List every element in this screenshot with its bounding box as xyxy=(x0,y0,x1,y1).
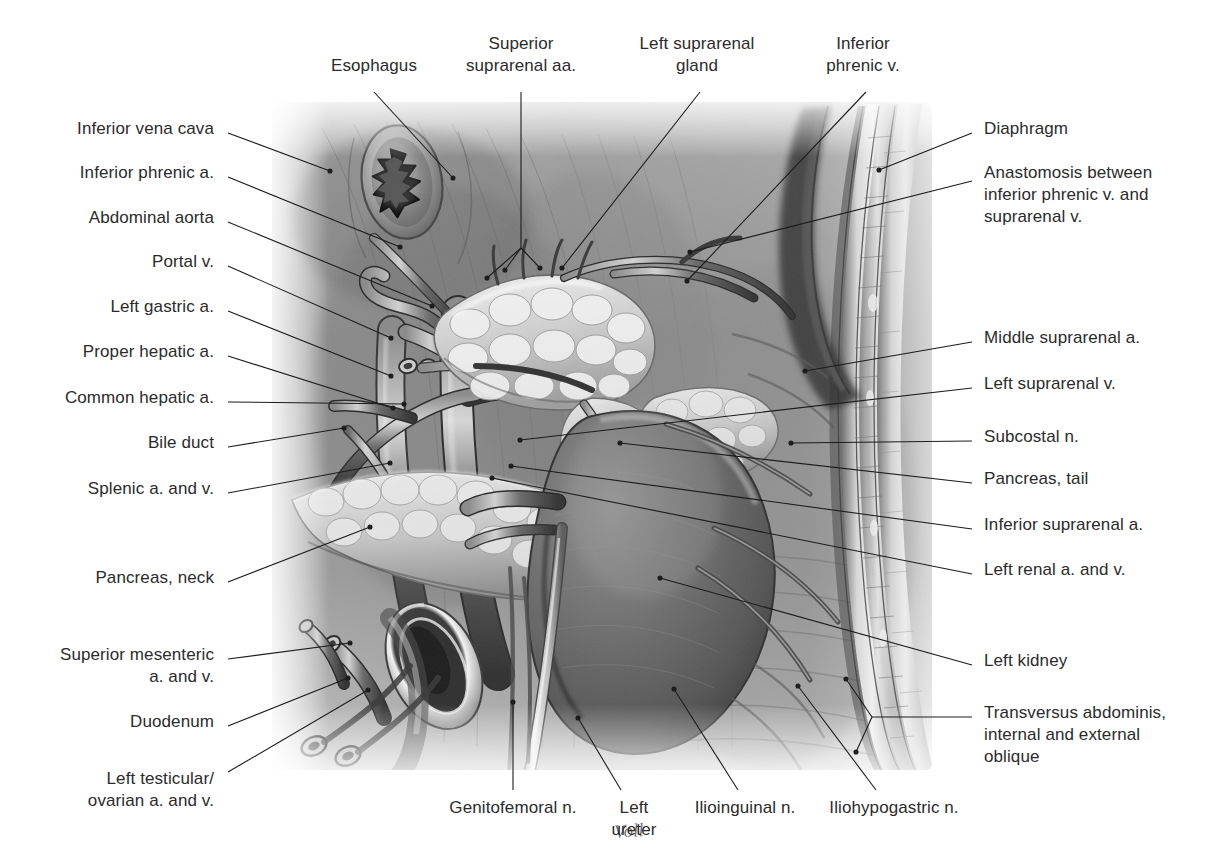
label-common-hepatic-a: Common hepatic a. xyxy=(0,387,214,409)
leader-inferior-vena-cava xyxy=(228,133,332,173)
label-anastomosis-inferior-phrenic-suprarenal: Anastomosis between inferior phrenic v. … xyxy=(984,162,1208,228)
leader-middle-suprarenal-a xyxy=(803,342,972,373)
label-left-kidney: Left kidney xyxy=(984,650,1208,672)
label-transversus-abdominis-internal-external-oblique: Transversus abdominis, internal and exte… xyxy=(984,702,1208,768)
leader-splenic-a-and-v xyxy=(228,461,392,493)
label-left-testicular-ovarian-a-and-v: Left testicular/ ovarian a. and v. xyxy=(0,768,214,812)
leader-esophagus xyxy=(374,92,455,180)
leader-left-ureter xyxy=(576,716,621,790)
leader-iliohypogastric-n xyxy=(796,684,876,790)
label-abdominal-aorta: Abdominal aorta xyxy=(0,207,214,229)
label-inferior-phrenic-a: Inferior phrenic a. xyxy=(0,162,214,184)
label-left-suprarenal-v: Left suprarenal v. xyxy=(984,373,1208,395)
label-superior-mesenteric-a-and-v: Superior mesenteric a. and v. xyxy=(0,644,214,688)
leader-abdominal-aorta xyxy=(228,222,434,308)
leader-left-kidney xyxy=(658,576,972,665)
label-inferior-suprarenal-a: Inferior suprarenal a. xyxy=(984,514,1208,536)
leader-left-suprarenal-v xyxy=(518,388,972,442)
leader-left-suprarenal-gland xyxy=(560,92,700,270)
leader-superior-mesenteric-a-and-v xyxy=(228,641,352,659)
label-left-gastric-a: Left gastric a. xyxy=(0,296,214,318)
leader-superior-suprarenal-aa xyxy=(485,92,542,280)
label-proper-hepatic-a: Proper hepatic a. xyxy=(0,341,214,363)
label-diaphragm: Diaphragm xyxy=(984,118,1208,140)
label-subcostal-n: Subcostal n. xyxy=(984,426,1208,448)
leader-anastomosis xyxy=(688,181,972,254)
leader-pancreas-neck xyxy=(228,525,372,582)
leader-subcostal-n xyxy=(789,441,972,445)
leader-duodenum xyxy=(228,676,350,726)
leader-portal-v xyxy=(228,266,393,340)
leader-left-renal-a-and-v xyxy=(490,476,972,574)
label-splenic-a-and-v: Splenic a. and v. xyxy=(0,478,214,500)
leader-genitofemoral-n xyxy=(511,700,515,790)
label-left-renal-a-and-v: Left renal a. and v. xyxy=(984,559,1208,581)
leader-inferior-phrenic-v xyxy=(685,92,866,283)
label-duodenum: Duodenum xyxy=(0,711,214,733)
leader-left-testicular-ovarian-a-and-v xyxy=(228,688,370,772)
label-iliohypogastric-n: Iliohypogastric n. xyxy=(734,797,1054,819)
leader-inferior-suprarenal-a xyxy=(509,464,972,529)
label-pancreas-neck: Pancreas, neck xyxy=(0,567,214,589)
leader-bile-duct xyxy=(228,426,346,447)
label-bile-duct: Bile duct xyxy=(0,432,214,454)
leader-ilioinguinal-n xyxy=(672,687,738,790)
leader-pancreas-tail xyxy=(618,441,972,483)
leader-transversus-abdominis-bracket xyxy=(844,677,972,754)
label-inferior-phrenic-v: Inferior phrenic v. xyxy=(703,33,1023,77)
leader-diaphragm xyxy=(877,133,972,172)
leader-left-gastric-a xyxy=(228,311,393,378)
label-middle-suprarenal-a: Middle suprarenal a. xyxy=(984,327,1208,349)
leader-common-hepatic-a xyxy=(228,402,406,406)
label-inferior-vena-cava: Inferior vena cava xyxy=(0,118,214,140)
label-pancreas-tail: Pancreas, tail xyxy=(984,468,1208,490)
anatomy-plate: Voll xyxy=(0,0,1208,866)
leader-inferior-phrenic-a xyxy=(228,177,402,249)
label-portal-v: Portal v. xyxy=(0,251,214,273)
